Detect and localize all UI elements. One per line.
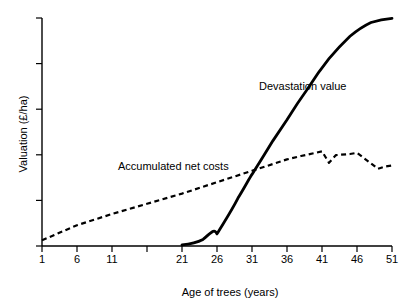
x-tick-marks — [42, 246, 392, 252]
series-devastation-value — [182, 18, 392, 245]
x-tick-label-11: 11 — [99, 253, 125, 265]
x-axis-title: Age of trees (years) — [150, 286, 310, 298]
annotation-devastation-value: Devastation value — [259, 80, 346, 92]
x-tick-label-46: 46 — [344, 253, 370, 265]
x-tick-label-21: 21 — [169, 253, 195, 265]
chart-container: 1 6 11 21 26 31 36 41 46 51 Valuation (£… — [0, 0, 417, 308]
annotation-accumulated-net-costs: Accumulated net costs — [118, 160, 229, 172]
x-tick-label-51: 51 — [379, 253, 405, 265]
x-tick-label-6: 6 — [64, 253, 90, 265]
x-tick-label-41: 41 — [309, 253, 335, 265]
y-axis-title: Valuation (£/ha) — [17, 64, 29, 204]
y-tick-marks — [36, 18, 42, 246]
x-tick-label-36: 36 — [274, 253, 300, 265]
x-tick-label-26: 26 — [204, 253, 230, 265]
x-tick-label-31: 31 — [239, 253, 265, 265]
x-tick-label-1: 1 — [29, 253, 55, 265]
